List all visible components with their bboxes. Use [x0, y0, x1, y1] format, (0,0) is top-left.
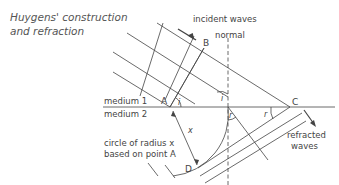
- radius-x-arrow: [173, 111, 197, 165]
- point-B-label: B: [203, 38, 209, 48]
- distance-x-label: x: [187, 126, 193, 135]
- huygens-circle-arc: [173, 107, 228, 176]
- medium-1-label: medium 1: [104, 96, 147, 106]
- normal-label: normal: [215, 30, 245, 40]
- incident-waves-label: incident waves: [193, 14, 257, 24]
- circle-pointer: [148, 163, 158, 176]
- huygens-diagram: incident waves normal medium 1 medium 2 …: [0, 0, 339, 185]
- refracted-wavefront-2: [200, 113, 302, 176]
- angle-r-at-C: r: [264, 110, 268, 119]
- wavefront-1: [140, 23, 163, 96]
- point-D-label: D: [185, 164, 192, 174]
- point-A-label: A: [161, 96, 168, 106]
- medium-2-label: medium 2: [104, 109, 147, 119]
- circle-label-line-1: circle of radius x: [104, 138, 174, 148]
- refracted-arrow-head: [310, 120, 316, 127]
- incident-ray-2: [127, 33, 228, 97]
- refracted-label-line-1: refracted: [287, 130, 326, 140]
- point-C-label: C: [292, 97, 298, 107]
- refracted-ray-1: [228, 107, 268, 160]
- circle-label-line-2: based on point A: [104, 149, 176, 159]
- angle-arc-r-C: [271, 107, 273, 119]
- angle-i-at-normal: i: [221, 94, 224, 103]
- refracted-label-line-2: waves: [291, 141, 318, 151]
